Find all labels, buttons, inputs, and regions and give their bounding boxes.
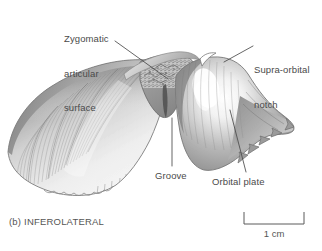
scale-bar-label: 1 cm — [243, 228, 305, 239]
label-supraorbital-line1: Supra-orbital — [254, 64, 310, 76]
label-groove: Groove — [155, 170, 187, 182]
scale-bar — [244, 212, 304, 224]
label-supraorbital-line2: notch — [254, 99, 310, 111]
label-orbital-plate: Orbital plate — [212, 176, 265, 188]
label-zygomatic-line1: Zygomatic — [64, 33, 109, 45]
panel-caption: (b) INFEROLATERAL — [9, 216, 104, 227]
anatomical-figure: Zygomatic articular surface Supra-orbita… — [0, 0, 322, 251]
label-zygomatic-line3: surface — [64, 102, 109, 114]
label-zygomatic-line2: articular — [64, 68, 109, 80]
leader-supraorbital — [224, 46, 253, 62]
label-supra-orbital-notch: Supra-orbital notch — [254, 41, 310, 133]
label-zygomatic-articular-surface: Zygomatic articular surface — [64, 10, 109, 137]
